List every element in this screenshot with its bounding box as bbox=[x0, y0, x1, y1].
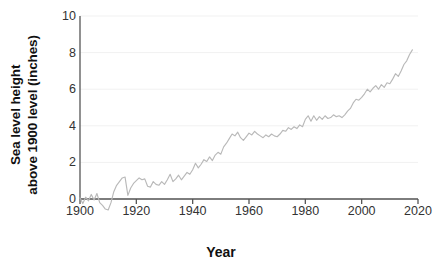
x-axis-tick-label: 2000 bbox=[337, 204, 387, 218]
x-axis-tick-label: 2020 bbox=[393, 204, 442, 218]
x-axis-tick-label: 1900 bbox=[55, 204, 105, 218]
x-axis-tick-labels: 1900192019401960198020002020 bbox=[0, 0, 442, 272]
x-axis-tick-label: 1960 bbox=[224, 204, 274, 218]
x-axis-title: Year bbox=[0, 244, 442, 260]
x-axis-tick-label: 1980 bbox=[280, 204, 330, 218]
sea-level-line-chart: Sea level height above 1900 level (inche… bbox=[0, 0, 442, 272]
x-axis-tick-label: 1940 bbox=[168, 204, 218, 218]
x-axis-tick-label: 1920 bbox=[111, 204, 161, 218]
